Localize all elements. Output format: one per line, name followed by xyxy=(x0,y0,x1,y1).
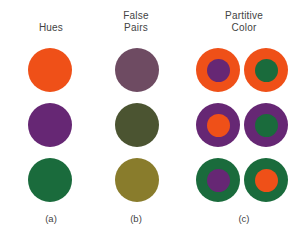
orange-hue-swatch xyxy=(28,48,72,92)
column-heading-false-pairs: False Pairs xyxy=(96,10,176,34)
dark-olive-false-pair-swatch xyxy=(115,103,159,147)
ring-outer-right xyxy=(244,48,288,92)
ring-outer-right xyxy=(244,158,288,202)
purple-hue-swatch xyxy=(28,103,72,147)
ring-core-right xyxy=(255,114,278,137)
ring-outer-left xyxy=(196,103,240,147)
column-heading-hues: Hues xyxy=(8,22,94,34)
ring-outer-right xyxy=(244,103,288,147)
ring-core-left xyxy=(207,169,230,192)
swatch-row xyxy=(0,158,307,204)
column-heading-partitive-color: Partitive Color xyxy=(188,10,300,34)
caption-a: (a) xyxy=(8,213,94,224)
ring-core-left xyxy=(207,114,230,137)
ring-core-right xyxy=(255,169,278,192)
green-hue-swatch xyxy=(28,158,72,202)
ring-outer-left xyxy=(196,48,240,92)
purple-ring-pair xyxy=(196,103,296,147)
ring-core-right xyxy=(255,59,278,82)
green-ring-pair xyxy=(196,158,296,202)
swatch-row xyxy=(0,103,307,149)
caption-c: (c) xyxy=(188,213,300,224)
color-theory-figure: Hues False Pairs Partitive Color xyxy=(0,0,307,238)
mauve-false-pair-swatch xyxy=(115,48,159,92)
ring-core-left xyxy=(207,59,230,82)
caption-b: (b) xyxy=(96,213,176,224)
gold-olive-false-pair-swatch xyxy=(115,158,159,202)
ring-outer-left xyxy=(196,158,240,202)
swatch-row xyxy=(0,48,307,94)
orange-ring-pair xyxy=(196,48,296,92)
